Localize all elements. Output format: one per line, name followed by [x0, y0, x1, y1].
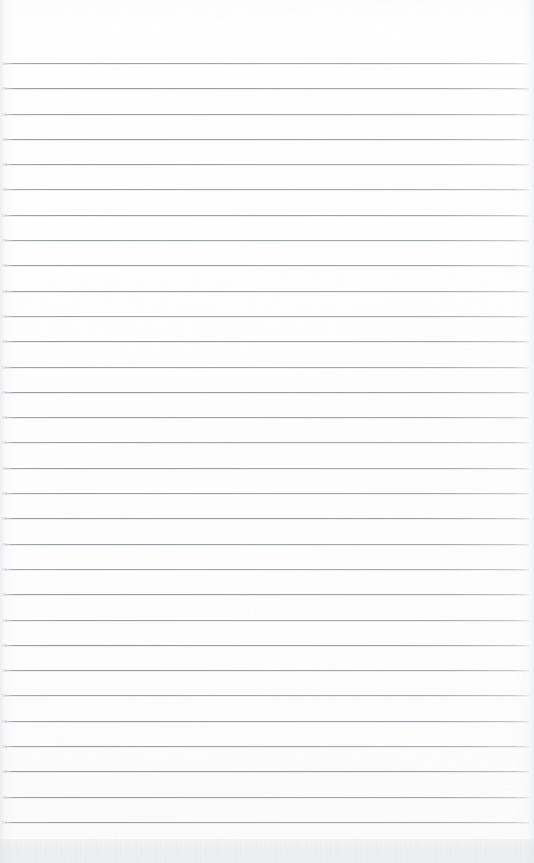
- bottom-grey-band: [0, 839, 534, 863]
- ruling-line: [5, 797, 529, 798]
- ruling-line: [5, 468, 529, 469]
- ruling-line: [5, 822, 529, 823]
- ruling-line: [5, 721, 529, 722]
- ruling-line: [5, 88, 529, 89]
- ruling-line: [5, 518, 529, 519]
- scanned-page: [0, 0, 534, 863]
- ruling-line: [5, 291, 529, 292]
- ruling-line: [5, 265, 529, 266]
- ruling-line: [5, 367, 529, 368]
- ruling-line: [5, 240, 529, 241]
- ruling-line: [5, 493, 529, 494]
- ruling-line: [5, 316, 529, 317]
- ruling-line: [5, 189, 529, 190]
- ruling-line: [5, 63, 529, 64]
- ruling-line: [5, 746, 529, 747]
- ruling-line: [5, 620, 529, 621]
- ruling-line: [5, 417, 529, 418]
- ruling-line: [5, 594, 529, 595]
- ruling-line: [5, 139, 529, 140]
- ruling-line: [5, 771, 529, 772]
- ruling-line: [5, 215, 529, 216]
- ruling-line: [5, 164, 529, 165]
- ruling-line: [5, 544, 529, 545]
- ruling-line: [5, 569, 529, 570]
- ruling-line: [5, 645, 529, 646]
- ruling-line: [5, 670, 529, 671]
- ruling-line: [5, 695, 529, 696]
- ruling-line: [5, 442, 529, 443]
- ruling-line: [5, 392, 529, 393]
- ruling-lines-layer: [0, 0, 534, 863]
- ruling-line: [5, 114, 529, 115]
- ruling-line: [5, 341, 529, 342]
